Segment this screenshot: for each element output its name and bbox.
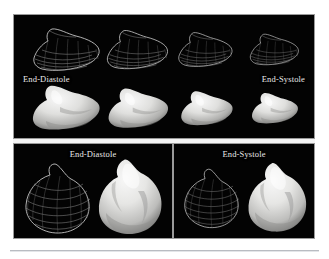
surface-frame-4 (250, 91, 301, 126)
br-wireframe-mesh (178, 164, 244, 232)
surface-frame-1 (30, 83, 104, 133)
bl-wireframe-mesh (18, 160, 96, 236)
wireframe-frame-3 (174, 27, 236, 71)
surface-frame-3 (179, 89, 236, 128)
wireframe-frame-2 (102, 25, 172, 73)
top-sequence-panel: End-Diastole End-Systole (13, 14, 315, 139)
bottom-right-end-systole-label: End-Systole (222, 149, 265, 159)
bl-shaded-surface (94, 157, 170, 237)
figure-container: End-Diastole End-Systole (13, 14, 315, 239)
top-panel-end-diastole-label: End-Diastole (23, 74, 70, 84)
wireframe-frame-4 (246, 28, 302, 70)
top-panel-end-systole-label: End-Systole (262, 74, 305, 84)
bottom-right-panel: End-Systole (173, 143, 315, 239)
br-shaded-surface (244, 160, 314, 235)
caption-divider-line-shadow (10, 251, 319, 252)
surface-frame-2 (106, 86, 172, 131)
bottom-left-panel: End-Diastole (13, 143, 173, 239)
wireframe-frame-1 (28, 23, 104, 75)
bottom-left-end-diastole-label: End-Diastole (70, 149, 117, 159)
